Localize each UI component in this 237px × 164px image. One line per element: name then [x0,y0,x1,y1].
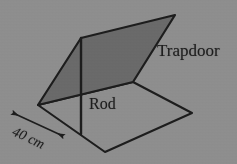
trapdoor-label: Trapdoor [157,42,220,59]
rod-label: Rod [89,96,116,112]
trapdoor-diagram: Trapdoor Rod 40 cm [0,0,237,164]
